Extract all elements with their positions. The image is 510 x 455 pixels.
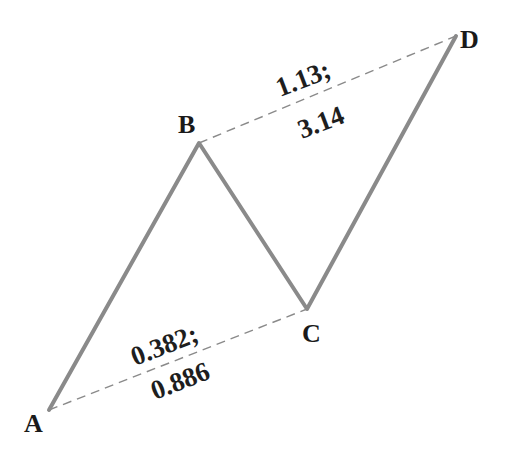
abcd-pattern-diagram: A B C D 0.382; 0.886 1.13; 3.14: [0, 0, 510, 455]
bd-ratio-line1: 1.13;: [271, 54, 334, 102]
point-label-c: C: [302, 319, 321, 348]
point-label-d: D: [460, 25, 479, 54]
point-label-b: B: [178, 110, 195, 139]
point-label-a: A: [24, 409, 43, 438]
bd-ratio-line2: 3.14: [293, 100, 348, 145]
abcd-legs: [49, 36, 456, 410]
